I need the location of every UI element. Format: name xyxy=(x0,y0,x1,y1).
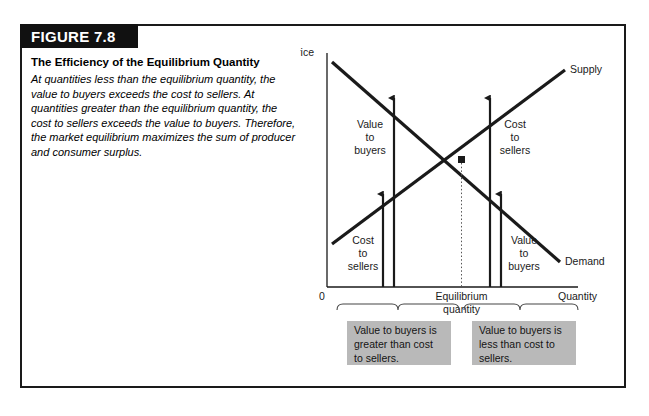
equilibrium-label-line2: quantity xyxy=(443,303,481,315)
right-callout-line-2: less than cost to xyxy=(479,338,555,350)
y-axis-label: Price xyxy=(300,46,314,58)
arrow-right-value-to-buyers-label-2: to xyxy=(520,247,529,259)
right-callout-line-3: sellers. xyxy=(479,352,512,364)
equilibrium-label-line1: Equilibrium xyxy=(436,290,488,302)
left-callout-line-1: Value to buyers is xyxy=(354,324,437,336)
caption-body: At quantities less than the equilibrium … xyxy=(31,72,299,159)
x-axis-label: Quantity xyxy=(558,290,598,302)
arrow-right-cost-to-sellers-label-2: to xyxy=(511,131,520,143)
equilibrium-point-marker xyxy=(458,156,465,163)
arrow-left-value-to-buyers-label-1: Value xyxy=(357,118,383,130)
left-callout-line-3: to sellers. xyxy=(354,352,399,364)
supply-curve xyxy=(332,70,565,244)
caption-title: The Efficiency of the Equilibrium Quanti… xyxy=(31,55,299,69)
figure-number-label: FIGURE 7.8 xyxy=(31,28,116,45)
left-callout-line-2: greater than cost xyxy=(354,338,433,350)
figure-number-tab: FIGURE 7.8 xyxy=(20,24,138,48)
arrow-right-value-to-buyers-label-3: buyers xyxy=(508,260,540,272)
arrow-left-cost-to-sellers-label-2: to xyxy=(359,247,368,259)
supply-demand-chart: Price Quantity 0 Demand Supply Equilibri… xyxy=(300,38,640,388)
arrow-right-cost-to-sellers-label-3: sellers xyxy=(500,144,530,156)
figure-caption: The Efficiency of the Equilibrium Quanti… xyxy=(31,55,299,159)
arrow-left-value-to-buyers-label-2: to xyxy=(366,131,375,143)
supply-curve-label: Supply xyxy=(570,63,603,75)
arrow-left-cost-to-sellers-label-1: Cost xyxy=(352,234,374,246)
arrow-left-cost-to-sellers-label-3: sellers xyxy=(348,260,378,272)
origin-label: 0 xyxy=(319,290,325,302)
right-callout-line-1: Value to buyers is xyxy=(479,324,562,336)
arrow-left-value-to-buyers-label-3: buyers xyxy=(354,144,386,156)
arrow-right-value-to-buyers-label-1: Value xyxy=(511,234,537,246)
arrow-right-cost-to-sellers-label-1: Cost xyxy=(504,118,526,130)
demand-curve-label: Demand xyxy=(565,255,605,267)
right-brace xyxy=(464,304,578,310)
left-brace xyxy=(337,304,459,310)
demand-curve xyxy=(332,62,560,262)
